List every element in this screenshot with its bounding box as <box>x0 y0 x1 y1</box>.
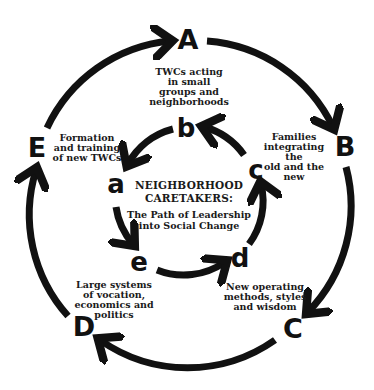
caption-D: Large systems of vocation, economics and… <box>74 280 153 320</box>
arrow-b-to-a <box>128 129 173 164</box>
arrow-b-to-c <box>308 167 351 312</box>
node-A: A <box>178 26 199 53</box>
caption-C: New operating methods, styles and wisdom <box>224 282 307 312</box>
caption-A: TWCs acting in small groups and neighbor… <box>149 67 229 107</box>
arrow-d-to-e <box>29 170 68 316</box>
node-E: E <box>28 134 46 161</box>
leadership-cycle-diagram: A B C D E b c d e a TWCs acting in small… <box>0 0 374 390</box>
arrow-c-to-d <box>100 340 275 368</box>
node-inner-e: e <box>130 249 148 275</box>
node-B: B <box>335 133 356 160</box>
diagram-title: NEIGHBORHOOD CARETAKERS: <box>135 179 243 205</box>
arrow-e-to-d <box>157 262 225 275</box>
arrow-d-to-c <box>249 184 263 244</box>
caption-E: Formation and training of new TWCs <box>53 133 122 163</box>
caption-B: Families integrating the old and the new <box>254 132 334 182</box>
node-a-inner-b: b <box>177 115 196 141</box>
node-inner-d: d <box>231 245 250 271</box>
node-C: C <box>283 315 303 342</box>
node-inner-a: a <box>107 171 125 197</box>
arrow-c-to-b <box>204 127 244 155</box>
diagram-subtitle: The Path of Leadership into Social Chang… <box>127 209 251 231</box>
